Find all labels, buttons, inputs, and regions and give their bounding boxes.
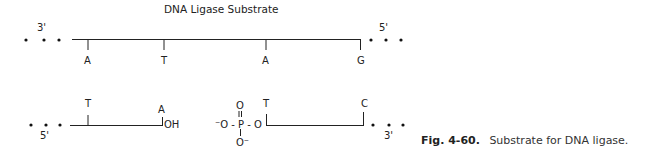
top-base-4: G <box>357 55 365 66</box>
figure-caption-text: Substrate for DNA ligase. <box>489 134 628 147</box>
top-strand-3prime-label: 3' <box>37 22 46 33</box>
bottom-right-segment <box>266 112 364 126</box>
figure-caption: Fig. 4-60. Substrate for DNA ligase. <box>421 134 628 147</box>
hydroxyl-terminus: OH <box>164 119 179 130</box>
phosphate-group: ⁻O - P - O <box>215 119 262 130</box>
bottom-strand-5prime-label: 5' <box>40 130 49 141</box>
bottom-right-base-1: T <box>263 98 269 109</box>
top-base-3: A <box>262 55 269 66</box>
phosphate-bottom-oxygen: O⁻ <box>236 137 249 148</box>
top-strand-5prime-label: 5' <box>379 22 388 33</box>
top-strand-backbone <box>72 40 361 51</box>
bottom-right-ellipsis-dots <box>371 123 404 126</box>
top-right-ellipsis-dots <box>369 38 402 41</box>
top-base-1: A <box>84 55 91 66</box>
bottom-left-segment <box>70 115 163 126</box>
bottom-strand-3prime-label: 3' <box>384 130 393 141</box>
bottom-left-ellipsis-dots <box>29 123 61 126</box>
figure-caption-label: Fig. 4-60. <box>421 134 480 147</box>
phosphate-top-oxygen: O <box>236 100 244 111</box>
top-left-ellipsis-dots <box>24 38 60 41</box>
bottom-right-base-2: C <box>361 98 368 109</box>
bottom-left-base-1: T <box>85 98 91 109</box>
diagram-title: DNA Ligase Substrate <box>164 3 279 15</box>
top-base-2: T <box>161 55 167 66</box>
bottom-left-base-2: A <box>158 104 165 115</box>
